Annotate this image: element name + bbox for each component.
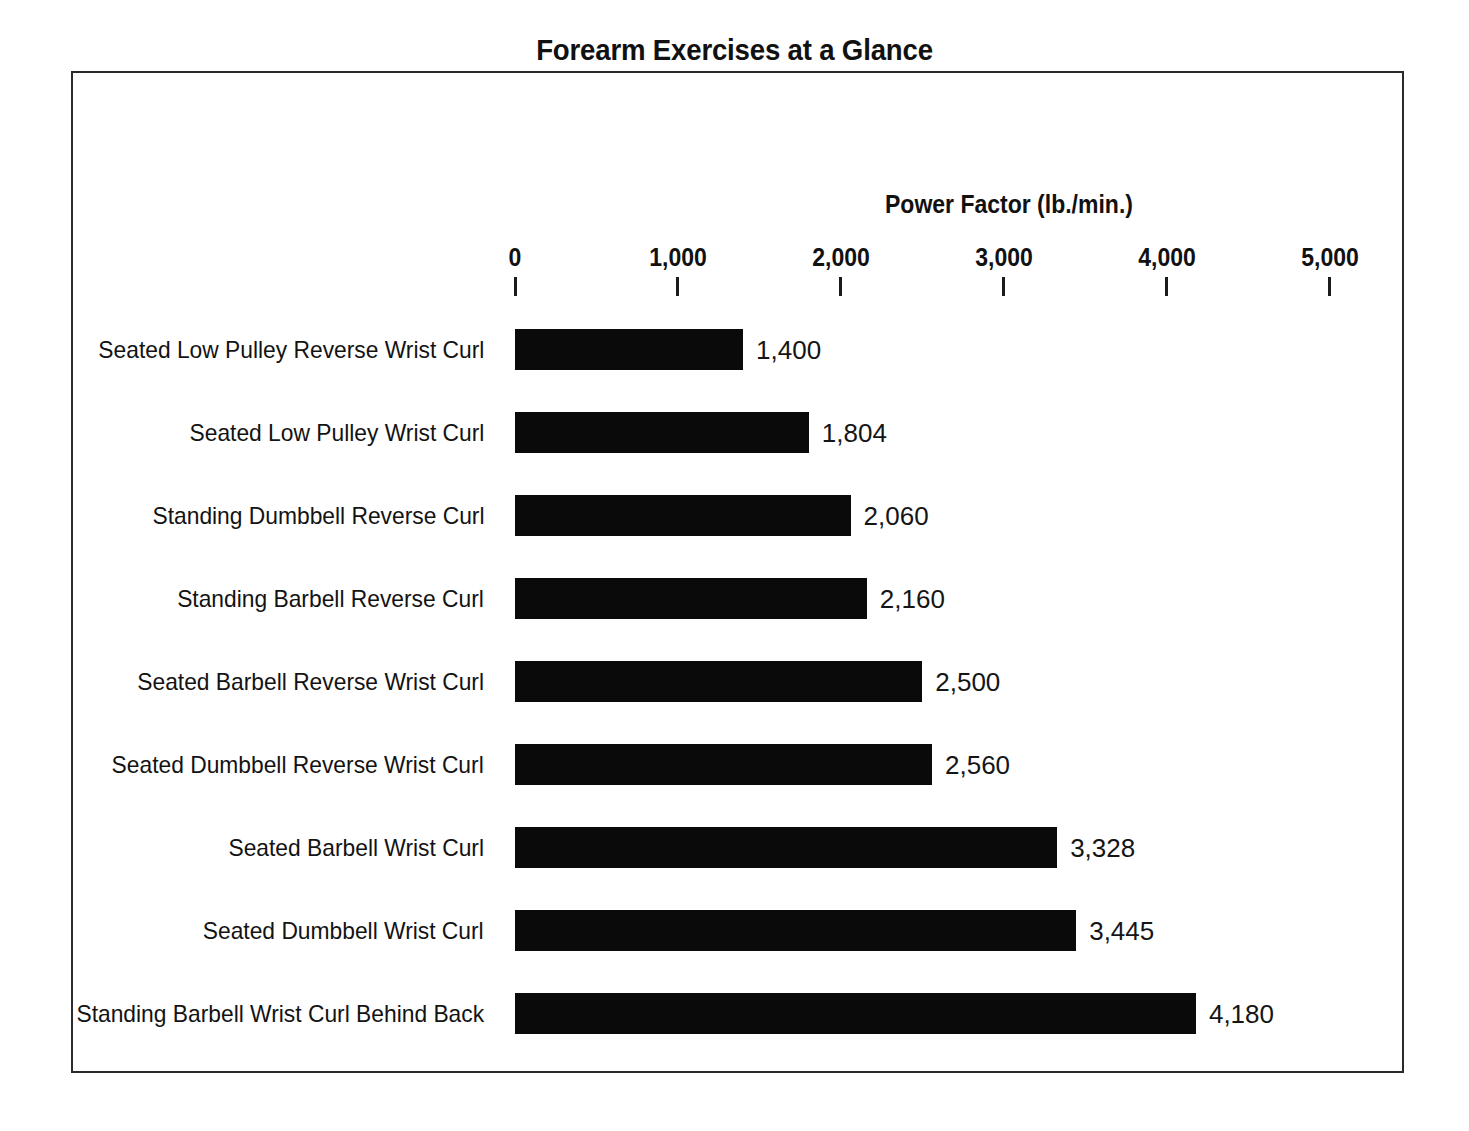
category-label: Seated Dumbbell Wrist Curl bbox=[203, 910, 484, 951]
bar-row: Standing Barbell Reverse Curl2,160 bbox=[0, 578, 1469, 619]
bar bbox=[515, 661, 922, 702]
bar-value-label: 2,500 bbox=[935, 661, 1000, 702]
category-label: Seated Low Pulley Wrist Curl bbox=[189, 412, 484, 453]
bar bbox=[515, 329, 743, 370]
bar bbox=[515, 412, 809, 453]
bar bbox=[515, 495, 851, 536]
bar-value-label: 2,160 bbox=[880, 578, 945, 619]
category-label: Seated Barbell Wrist Curl bbox=[228, 827, 484, 868]
category-label: Standing Barbell Wrist Curl Behind Back bbox=[76, 993, 484, 1034]
bar-rows: Seated Low Pulley Reverse Wrist Curl1,40… bbox=[0, 0, 1469, 1131]
bar-row: Seated Dumbbell Wrist Curl3,445 bbox=[0, 910, 1469, 951]
bar bbox=[515, 578, 867, 619]
bar-row: Seated Low Pulley Reverse Wrist Curl1,40… bbox=[0, 329, 1469, 370]
bar-value-label: 3,328 bbox=[1070, 827, 1135, 868]
bar bbox=[515, 910, 1076, 951]
bar-value-label: 1,400 bbox=[756, 329, 821, 370]
bar bbox=[515, 827, 1057, 868]
category-label: Seated Low Pulley Reverse Wrist Curl bbox=[98, 329, 484, 370]
category-label: Seated Dumbbell Reverse Wrist Curl bbox=[112, 744, 484, 785]
bar-row: Standing Barbell Wrist Curl Behind Back4… bbox=[0, 993, 1469, 1034]
bar-value-label: 4,180 bbox=[1209, 993, 1274, 1034]
bar-row: Seated Dumbbell Reverse Wrist Curl2,560 bbox=[0, 744, 1469, 785]
category-label: Seated Barbell Reverse Wrist Curl bbox=[137, 661, 484, 702]
bar-value-label: 2,560 bbox=[945, 744, 1010, 785]
bar-value-label: 1,804 bbox=[822, 412, 887, 453]
bar-row: Standing Dumbbell Reverse Curl2,060 bbox=[0, 495, 1469, 536]
bar-value-label: 2,060 bbox=[864, 495, 929, 536]
chart-figure: Forearm Exercises at a Glance Power Fact… bbox=[0, 0, 1469, 1131]
bar-value-label: 3,445 bbox=[1089, 910, 1154, 951]
bar-row: Seated Barbell Wrist Curl3,328 bbox=[0, 827, 1469, 868]
bar bbox=[515, 993, 1196, 1034]
bar-row: Seated Barbell Reverse Wrist Curl2,500 bbox=[0, 661, 1469, 702]
category-label: Standing Barbell Reverse Curl bbox=[177, 578, 484, 619]
bar bbox=[515, 744, 932, 785]
category-label: Standing Dumbbell Reverse Curl bbox=[152, 495, 484, 536]
bar-row: Seated Low Pulley Wrist Curl1,804 bbox=[0, 412, 1469, 453]
